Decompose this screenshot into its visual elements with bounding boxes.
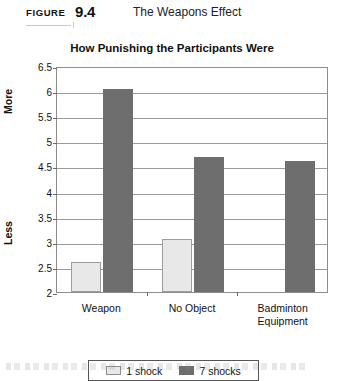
y-axis-tick	[53, 269, 57, 270]
y-axis-tick-label: 4.5	[38, 162, 52, 173]
y-axis-tick	[53, 219, 57, 220]
plot-area	[56, 67, 328, 293]
x-axis-tick	[147, 292, 148, 296]
bar	[285, 161, 315, 292]
y-axis-tick-label: 6	[46, 87, 52, 98]
y-axis-tick-label: 3	[46, 237, 52, 248]
bar	[71, 262, 101, 292]
y-axis-tick-label: 3.5	[38, 212, 52, 223]
y-axis-high-label: More	[2, 89, 14, 114]
y-axis-tick	[53, 118, 57, 119]
chart-title: How Punishing the Participants Were	[0, 42, 344, 54]
bar	[194, 157, 224, 292]
y-axis-tick	[53, 168, 57, 169]
y-axis-tick	[53, 294, 57, 295]
x-axis-label-line: Badminton	[258, 302, 308, 315]
x-axis-label: Weapon	[82, 302, 121, 315]
x-axis-labels: WeaponNo ObjectBadmintonEquipment	[56, 296, 328, 336]
x-axis-label-line: Equipment	[258, 315, 308, 328]
y-axis-tick	[53, 244, 57, 245]
y-axis-tick	[53, 194, 57, 195]
figure-number: 9.4	[75, 3, 95, 20]
gridline	[57, 118, 327, 119]
y-axis-tick-label: 2	[46, 288, 52, 299]
y-axis-tick-label: 5	[46, 137, 52, 148]
source-note-cropped	[6, 363, 306, 370]
x-axis-label-line: Weapon	[82, 302, 121, 315]
figure-label: FIGURE	[26, 7, 66, 18]
y-axis-tick-label: 4	[46, 187, 52, 198]
y-axis-tick	[53, 68, 57, 69]
bar	[103, 89, 133, 292]
x-axis-tick	[237, 292, 238, 296]
figure-title: The Weapons Effect	[133, 5, 241, 19]
bar-chart: How Punishing the Participants Were More…	[0, 30, 344, 360]
figure-header: FIGURE 9.4 The Weapons Effect	[0, 0, 344, 28]
header-divider	[26, 25, 71, 26]
gridline	[57, 143, 327, 144]
y-axis-low-label: Less	[2, 221, 14, 245]
x-axis-label: BadmintonEquipment	[258, 302, 308, 327]
bar	[162, 239, 192, 292]
y-axis-tick-label: 6.5	[38, 62, 52, 73]
x-axis-label: No Object	[169, 302, 216, 315]
gridline	[57, 93, 327, 94]
y-axis-tick-labels: 6.565.554.543.532.52	[20, 67, 52, 293]
x-axis-label-line: No Object	[169, 302, 216, 315]
y-axis-tick-label: 2.5	[38, 262, 52, 273]
header-divider-tick	[73, 22, 74, 28]
y-axis-tick	[53, 93, 57, 94]
y-axis-tick	[53, 143, 57, 144]
y-axis-tick-label: 5.5	[38, 112, 52, 123]
